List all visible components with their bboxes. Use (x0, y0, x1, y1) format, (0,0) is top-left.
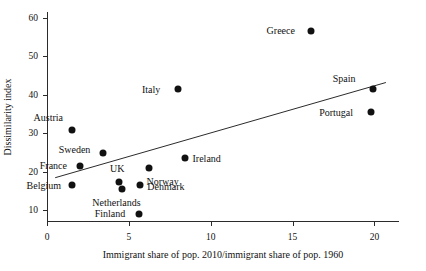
data-point-label: Portugal (319, 107, 353, 118)
x-axis-tick (211, 222, 212, 226)
data-point (76, 163, 83, 170)
y-axis-tick-label: 60 (29, 13, 39, 23)
x-axis-tick-label: 15 (288, 232, 298, 242)
data-point (137, 182, 144, 189)
data-point (119, 186, 126, 193)
data-point (174, 86, 181, 93)
x-axis-tick-label: 0 (45, 232, 50, 242)
x-axis-tick-label: 20 (370, 232, 380, 242)
data-point-label: France (40, 160, 67, 171)
y-axis-tick (43, 133, 47, 134)
data-point-label: UK (110, 163, 124, 174)
plot-area: 05101520102030405060AustriaFranceBelgium… (47, 12, 399, 222)
y-axis-tick (43, 56, 47, 57)
y-axis-tick-label: 50 (29, 51, 39, 61)
data-point (68, 126, 75, 133)
data-point (369, 86, 376, 93)
data-point (145, 165, 152, 172)
x-axis-title: Immigrant share of pop. 2010/immigrant s… (47, 249, 399, 260)
data-point-label: Belgium (27, 180, 61, 191)
data-point-label: Ireland (193, 153, 221, 164)
data-point-label: Austria (34, 112, 63, 123)
y-axis-tick-label: 20 (29, 167, 39, 177)
x-axis-tick-label: 5 (126, 232, 131, 242)
y-axis-tick-label: 40 (29, 90, 39, 100)
y-axis-title: Dissimilarity index (2, 27, 13, 207)
y-axis-tick (43, 172, 47, 173)
scatter-chart: 05101520102030405060AustriaFranceBelgium… (0, 0, 426, 271)
y-axis-tick-label: 10 (29, 205, 39, 215)
data-point (307, 28, 314, 35)
data-point-label: Sweden (59, 144, 91, 155)
data-point (135, 211, 142, 218)
data-point (68, 182, 75, 189)
x-axis-tick-label: 10 (206, 232, 216, 242)
data-point-label: Finland (95, 208, 126, 219)
x-axis-tick (129, 222, 130, 226)
data-point-label: Spain (333, 73, 356, 84)
data-point-label: Greece (267, 25, 295, 36)
y-axis-tick (43, 210, 47, 211)
data-point (368, 109, 375, 116)
data-point (181, 155, 188, 162)
x-axis-tick (293, 222, 294, 226)
y-axis-tick-label: 30 (29, 128, 39, 138)
x-axis-tick (47, 222, 48, 226)
data-point-label: Norway (147, 176, 179, 187)
y-axis-tick (43, 95, 47, 96)
x-axis-tick (374, 222, 375, 226)
y-axis-tick (43, 18, 47, 19)
data-point-label: Italy (142, 84, 160, 95)
data-point (99, 149, 106, 156)
data-point-label: Netherlands (92, 197, 140, 208)
data-point (116, 178, 123, 185)
